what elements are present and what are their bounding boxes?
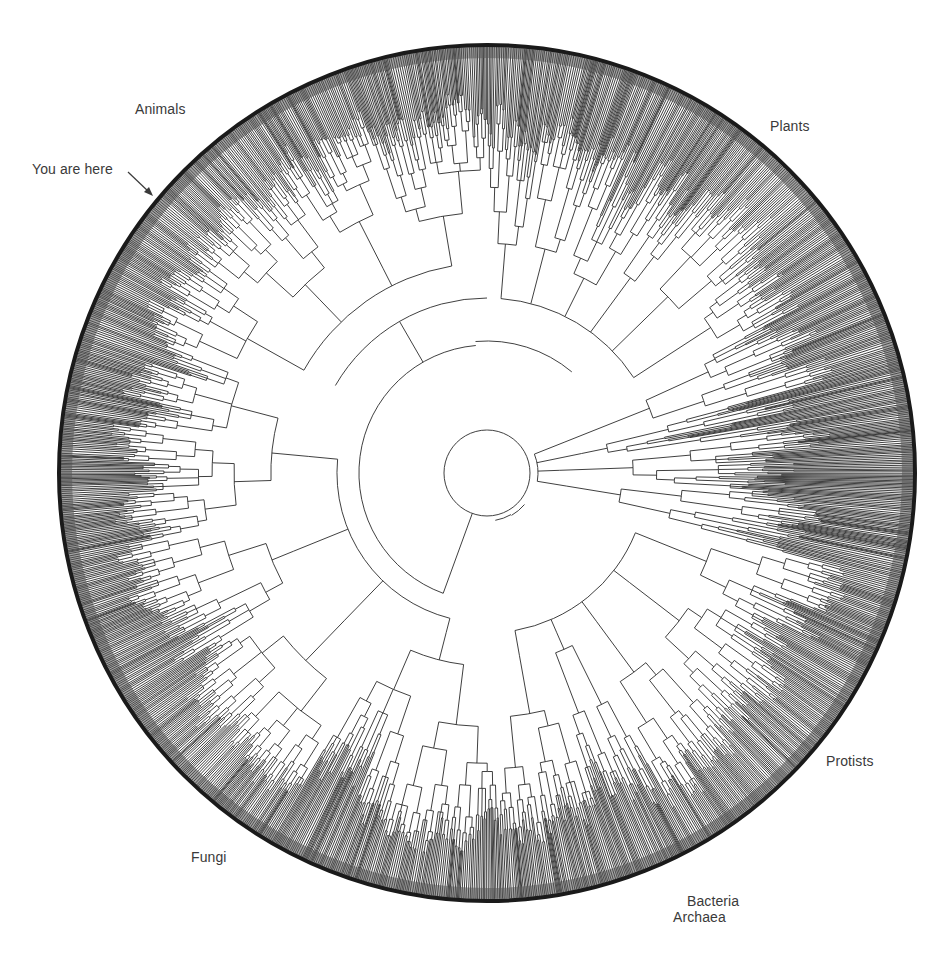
phylogenetic-tree xyxy=(0,0,932,958)
label-bacteria: Bacteria xyxy=(687,893,739,909)
you-are-here-arrow-icon xyxy=(128,172,153,196)
label-fungi: Fungi xyxy=(191,849,227,865)
tree-outer-rim xyxy=(59,45,915,901)
label-protists: Protists xyxy=(826,753,873,769)
label-animals: Animals xyxy=(135,101,186,117)
label-you-are-here: You are here xyxy=(32,161,113,177)
label-plants: Plants xyxy=(770,118,810,134)
label-archaea: Archaea xyxy=(673,909,726,925)
tree-of-life-figure: Animals You are here Plants Protists Fun… xyxy=(0,0,932,958)
